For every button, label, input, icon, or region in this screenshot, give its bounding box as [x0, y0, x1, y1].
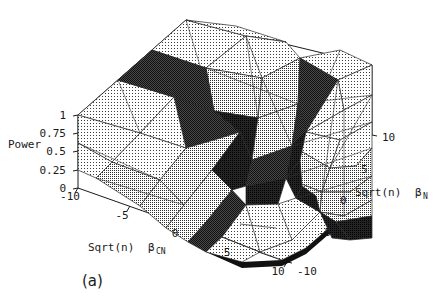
- figure-panel-a: 1 0.75 0.5 0.25 0 Power -10 -5 0 5 10 -1…: [0, 0, 447, 304]
- y-axis-label-main: Sqrt(n): [355, 186, 401, 199]
- y-tick-0: 0: [340, 194, 347, 207]
- y-axis-label-symbol: β: [415, 186, 422, 199]
- y-axis-label-subscript: N: [423, 192, 428, 201]
- x-axis-label-symbol: β: [148, 241, 155, 254]
- z-tick-05: 0.5: [46, 145, 66, 158]
- x-tick-10: 10: [271, 265, 284, 278]
- z-tick-075: 0.75: [40, 127, 67, 140]
- x-tick--10: -10: [60, 190, 80, 203]
- z-axis-label: Power: [8, 138, 41, 151]
- z-axis-ticks: [73, 115, 78, 189]
- x-tick--5: -5: [115, 209, 128, 222]
- x-axis-label-main: Sqrt(n): [88, 241, 134, 254]
- z-tick-025: 0.25: [40, 164, 67, 177]
- x-tick-5: 5: [224, 246, 231, 259]
- surface-plot-3d: 1 0.75 0.5 0.25 0 Power -10 -5 0 5 10 -1…: [0, 0, 447, 304]
- x-tick-0: 0: [172, 227, 179, 240]
- z-tick-1: 1: [59, 109, 66, 122]
- x-axis-label-subscript: CN: [156, 247, 166, 256]
- y-tick-10: 10: [382, 131, 395, 144]
- y-tick-5: 5: [361, 163, 368, 176]
- y-tick--10: -10: [297, 265, 317, 278]
- x-axis-label: Sqrt(n) β CN: [88, 241, 166, 256]
- panel-label: (a): [82, 272, 103, 290]
- y-tick--5: -5: [318, 226, 331, 239]
- y-axis-label: Sqrt(n) β N: [355, 186, 428, 201]
